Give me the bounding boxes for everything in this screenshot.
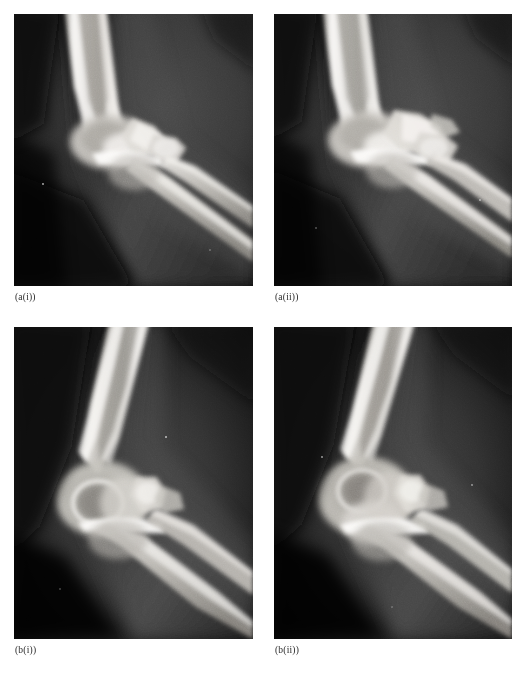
panel-label-a-ii: (a(ii)) — [275, 292, 299, 302]
figure-sheet: (a(i)) — [0, 0, 526, 676]
panel-label-b-ii: (b(ii)) — [275, 645, 299, 655]
xray-image-b-ii — [274, 327, 512, 639]
radiograph-panel-b-ii — [274, 327, 512, 639]
panel-label-a-i: (a(i)) — [15, 292, 36, 302]
radiograph-panel-a-ii — [274, 14, 512, 286]
xray-image-a-ii — [274, 14, 512, 286]
panel-label-b-i: (b(i)) — [15, 645, 36, 655]
radiograph-panel-b-i — [14, 327, 253, 639]
radiograph-panel-a-i — [14, 14, 253, 286]
xray-image-b-i — [14, 327, 253, 639]
xray-image-a-i — [14, 14, 253, 286]
